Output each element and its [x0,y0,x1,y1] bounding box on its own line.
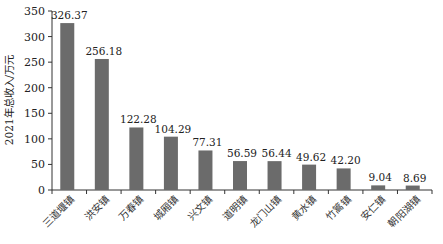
bar [198,150,212,190]
bar-value-label: 49.62 [296,151,326,163]
bar-value-label: 56.59 [227,147,257,159]
bar-value-label: 56.44 [262,147,292,159]
bar-value-label: 122.28 [120,113,157,125]
x-category-label: 道明镇 [220,193,250,223]
y-tick-label: 300 [24,31,45,44]
y-tick-label: 0 [38,184,45,197]
bar [371,185,385,190]
bar [164,137,178,190]
bar-value-label: 42.20 [331,154,361,166]
bar-value-label: 104.29 [155,123,192,135]
y-axis-title: 2021年总收入/万元 [3,54,15,145]
bar [129,127,143,190]
x-category-label: 洪安镇 [82,193,112,223]
x-category-label: 三道堰镇 [40,193,77,230]
x-category-label: 城厢镇 [151,193,181,223]
x-category-label: 黄水镇 [289,193,319,223]
bar [233,161,247,190]
x-category-label: 朝阳湖镇 [385,193,422,230]
x-category-label: 兴文镇 [185,193,215,223]
bar-value-label: 8.69 [403,172,426,184]
bar-value-label: 326.37 [51,9,88,21]
bar-chart: 050100150200250300350 三道堰镇洪安镇万春镇城厢镇兴文镇道明… [0,0,443,244]
y-tick-label: 50 [31,158,45,171]
bar [337,168,351,190]
y-tick-label: 250 [24,56,45,69]
y-tick-label: 100 [24,133,45,146]
x-category-label: 竹篙镇 [323,193,353,223]
bar [268,161,282,190]
x-category-label: 安仁镇 [358,193,388,223]
bar [95,59,109,190]
x-axis: 三道堰镇洪安镇万春镇城厢镇兴文镇道明镇龙门山镇黄水镇竹篙镇安仁镇朝阳湖镇 [40,190,432,230]
bar [302,165,316,190]
x-category-label: 万春镇 [116,193,146,223]
y-tick-label: 200 [24,82,45,95]
y-tick-label: 350 [24,5,45,18]
bar-value-label: 256.18 [85,45,122,57]
bar [406,186,420,190]
bar [60,23,74,190]
x-category-label: 龙门山镇 [247,193,284,230]
bars: 326.37256.18122.28104.2977.3156.5956.444… [51,9,427,190]
bar-value-label: 77.31 [192,136,222,148]
bar-value-label: 9.04 [368,171,392,183]
y-axis: 050100150200250300350 [24,5,52,197]
y-tick-label: 150 [24,107,45,120]
